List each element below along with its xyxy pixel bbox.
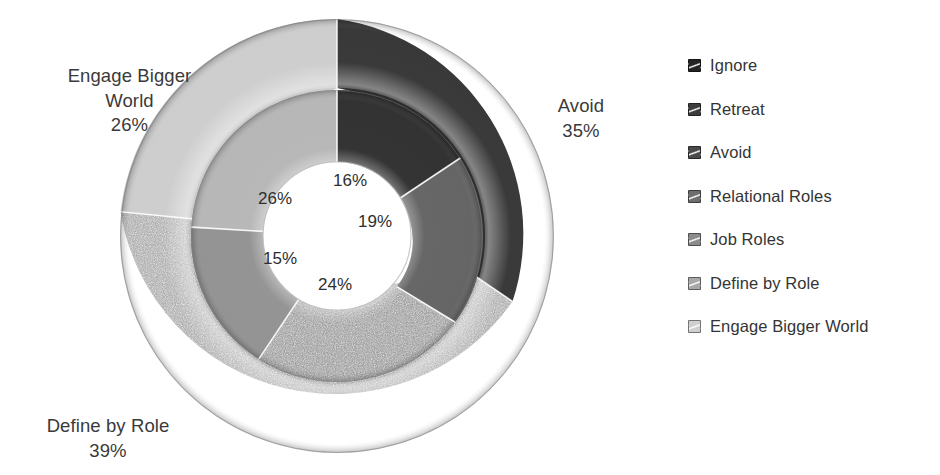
legend-label: Engage Bigger World (710, 317, 868, 336)
legend-swatch-icon (688, 277, 701, 290)
legend-swatch-icon (688, 59, 701, 72)
legend-label: Define by Role (710, 274, 820, 293)
legend-swatch-icon (688, 146, 701, 159)
inner-label-avoid: 24% (318, 275, 352, 295)
legend-item-avoid[interactable]: Avoid (688, 131, 928, 175)
legend-label: Relational Roles (710, 187, 832, 206)
callout-define-by-role-percent: 39% (18, 439, 198, 463)
callout-avoid-title: Avoid (558, 95, 604, 116)
legend-swatch-icon (688, 320, 701, 333)
legend-label: Ignore (710, 56, 757, 75)
legend-item-retreat[interactable]: Retreat (688, 88, 928, 132)
callout-define-by-role: Define by Role 39% (18, 390, 198, 475)
chart-canvas: Avoid 35% Define by Role 39% Engage Bigg… (0, 0, 940, 475)
legend-swatch-icon (688, 190, 701, 203)
legend-label: Avoid (710, 143, 751, 162)
callout-avoid-percent: 35% (531, 119, 631, 143)
inner-ring (191, 90, 483, 382)
legend-item-engage-bigger-world[interactable]: Engage Bigger World (688, 305, 928, 349)
legend-item-relational-roles[interactable]: Relational Roles (688, 175, 928, 219)
legend-item-define-by-role[interactable]: Define by Role (688, 262, 928, 306)
inner-label-job-roles: 26% (258, 189, 292, 209)
callout-engage-bigger-world-title: Engage Bigger World (68, 65, 192, 110)
legend-item-job-roles[interactable]: Job Roles (688, 218, 928, 262)
legend-swatch-icon (688, 233, 701, 246)
chart-legend: Ignore Retreat Avoid Relational Roles Jo… (688, 44, 928, 349)
inner-label-ignore: 16% (333, 171, 367, 191)
legend-label: Job Roles (710, 230, 784, 249)
callout-engage-bigger-world-percent: 26% (42, 113, 217, 137)
inner-label-retreat: 19% (358, 212, 392, 232)
callout-avoid: Avoid 35% (531, 70, 631, 168)
legend-swatch-icon (688, 103, 701, 116)
callout-define-by-role-title: Define by Role (47, 415, 170, 436)
legend-item-ignore[interactable]: Ignore (688, 44, 928, 88)
legend-label: Retreat (710, 100, 765, 119)
callout-engage-bigger-world: Engage Bigger World 26% (42, 40, 217, 162)
inner-label-relational-roles: 15% (263, 249, 297, 269)
